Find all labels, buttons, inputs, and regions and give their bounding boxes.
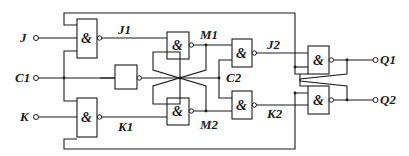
svg-text:&: & — [81, 31, 92, 46]
m2-label: M2 — [199, 117, 219, 132]
c2-label: C2 — [226, 70, 242, 85]
q2-output-terminal[interactable] — [373, 98, 378, 103]
k-label: K — [19, 109, 30, 124]
c1-to-j-gate — [64, 51, 77, 78]
k2-label: K2 — [266, 106, 283, 121]
c1-label: C1 — [15, 70, 30, 85]
j1-label: J1 — [117, 22, 131, 37]
q2-label: Q2 — [380, 92, 396, 107]
k-input-terminal[interactable] — [34, 115, 39, 120]
q1-label: Q1 — [380, 52, 396, 67]
c1-input-terminal[interactable] — [34, 76, 39, 81]
svg-text:&: & — [236, 46, 247, 61]
inverter-gate — [115, 65, 137, 89]
svg-text:&: & — [236, 98, 247, 113]
m1-label: M1 — [199, 27, 218, 42]
svg-text:&: & — [172, 38, 183, 53]
j2-label: J2 — [266, 37, 281, 52]
c1-to-k-gate — [64, 78, 77, 101]
q1-output-terminal[interactable] — [373, 58, 378, 63]
j-label: J — [19, 30, 27, 45]
svg-text:&: & — [172, 104, 183, 119]
svg-text:&: & — [313, 93, 324, 108]
k1-label: K1 — [117, 119, 133, 134]
svg-text:&: & — [81, 110, 92, 125]
jk-flipflop-circuit: J C1 K & J1 & K1 C2 & M1 & M2 & — [0, 0, 409, 156]
svg-text:&: & — [313, 53, 324, 68]
j-input-terminal[interactable] — [34, 36, 39, 41]
